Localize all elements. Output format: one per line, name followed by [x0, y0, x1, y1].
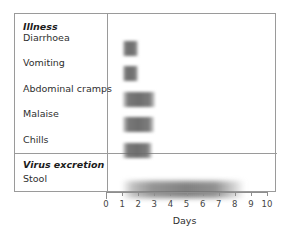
x-tick-5 [187, 192, 188, 196]
x-tick-2 [138, 192, 139, 196]
bar-vomiting [123, 66, 137, 81]
chart-frame: IllnessDiarrhoeaVomitingAbdominal cramps… [14, 13, 276, 192]
bar-malaise [123, 117, 154, 132]
x-tick-label-0: 0 [98, 199, 114, 209]
x-tick-1 [122, 192, 123, 196]
bar-fill [123, 117, 154, 132]
x-tick-label-3: 3 [146, 199, 162, 209]
x-axis-title-label: Days [173, 215, 197, 226]
timeline-chart: IllnessDiarrhoeaVomitingAbdominal cramps… [0, 0, 289, 243]
x-axis-title: Days [0, 215, 289, 226]
x-tick-label-1: 1 [114, 199, 130, 209]
x-tick-9 [251, 192, 252, 196]
plot-area [107, 14, 277, 193]
group-heading-illness: Illness [23, 21, 58, 32]
x-tick-7 [219, 192, 220, 196]
x-tick-label-7: 7 [211, 199, 227, 209]
x-tick-0 [106, 192, 107, 199]
x-tick-3 [154, 192, 155, 196]
row-label-diarrhoea: Diarrhoea [23, 32, 70, 43]
x-tick-label-9: 9 [243, 199, 259, 209]
bar-fill [123, 41, 137, 56]
x-tick-label-10: 10 [259, 199, 275, 209]
x-tick-10 [267, 192, 268, 196]
row-label-stool: Stool [23, 173, 47, 184]
bar-chills [123, 143, 152, 158]
bar-abdominal-cramps [123, 92, 155, 107]
bar-fill [123, 92, 155, 107]
bar-diarrhoea [123, 41, 137, 56]
x-tick-label-4: 4 [162, 199, 178, 209]
x-tick-label-2: 2 [130, 199, 146, 209]
row-label-abdominal-cramps: Abdominal cramps [23, 83, 112, 94]
bar-stool [123, 181, 244, 198]
row-label-chills: Chills [23, 134, 49, 145]
x-tick-label-6: 6 [195, 199, 211, 209]
bar-fill [123, 143, 152, 158]
row-label-vomiting: Vomiting [23, 57, 65, 68]
x-tick-label-8: 8 [227, 199, 243, 209]
bar-fill [123, 181, 244, 198]
bar-fill [123, 66, 137, 81]
x-tick-label-5: 5 [179, 199, 195, 209]
x-tick-4 [170, 192, 171, 196]
group-heading-virus-excretion: Virus excretion [23, 159, 104, 170]
row-label-malaise: Malaise [23, 108, 59, 119]
x-tick-8 [235, 192, 236, 196]
x-tick-6 [203, 192, 204, 196]
